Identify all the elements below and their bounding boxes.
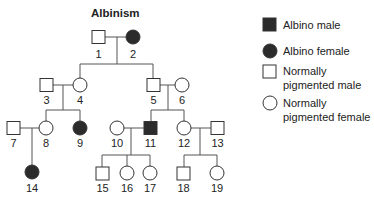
individual-label: 1 (95, 48, 101, 60)
individual-label: 5 (150, 94, 156, 106)
legend-albino-female-icon (263, 44, 277, 58)
legend-label: Albino male (283, 19, 340, 31)
legend-label: Normally (283, 97, 327, 109)
individual-label: 9 (77, 137, 83, 149)
individual-label: 18 (177, 182, 189, 194)
individual-label: 12 (178, 137, 190, 149)
individual-7-unaffected-male-square (7, 122, 20, 135)
individual-label: 19 (211, 182, 223, 194)
individual-16-unaffected-female-circle (120, 166, 134, 180)
individual-label: 2 (130, 48, 136, 60)
legend-label: pigmented male (283, 79, 361, 91)
legend-normal-female-icon (263, 96, 277, 110)
legend-normal-male-icon (263, 65, 276, 78)
individual-3-unaffected-male-square (40, 79, 53, 92)
individual-14-affected-female-circle (25, 165, 39, 179)
individual-label: 6 (179, 94, 185, 106)
individual-2-affected-female-circle (126, 30, 140, 44)
pedigree-diagram: Albinism (0, 0, 374, 198)
individual-18-unaffected-male-square (177, 167, 190, 180)
individual-11-affected-male-square (144, 122, 157, 135)
individual-label: 4 (77, 94, 83, 106)
individual-17-unaffected-female-circle (143, 166, 157, 180)
legend-albino-male-icon (263, 18, 276, 31)
individual-1-unaffected-male-square (92, 31, 105, 44)
legend-label: Albino female (283, 45, 350, 57)
individual-label: 14 (26, 182, 38, 194)
individual-label: 16 (121, 182, 133, 194)
individual-8-unaffected-female-circle (39, 121, 53, 135)
individual-19-unaffected-female-circle (210, 166, 224, 180)
individual-label: 10 (111, 137, 123, 149)
individual-10-unaffected-female-circle (110, 121, 124, 135)
diagram-title: Albinism (91, 7, 140, 19)
legend-label: Normally (283, 65, 327, 77)
individual-label: 17 (144, 182, 156, 194)
individual-15-unaffected-male-square (96, 167, 109, 180)
individual-5-unaffected-male-square (147, 79, 160, 92)
legend: Albino male Albino female Normally pigme… (263, 18, 370, 123)
individual-12-unaffected-female-circle (177, 121, 191, 135)
individual-label: 7 (10, 137, 16, 149)
individual-label: 13 (211, 137, 223, 149)
individual-label: 8 (43, 137, 49, 149)
individual-label: 3 (43, 94, 49, 106)
individual-9-affected-female-circle (73, 121, 87, 135)
individual-13-unaffected-male-square (211, 122, 224, 135)
individual-6-unaffected-female-circle (175, 78, 189, 92)
individual-4-unaffected-female-circle (73, 78, 87, 92)
individual-label: 11 (145, 137, 156, 149)
legend-label: pigmented female (283, 111, 370, 123)
individual-label: 15 (96, 182, 108, 194)
